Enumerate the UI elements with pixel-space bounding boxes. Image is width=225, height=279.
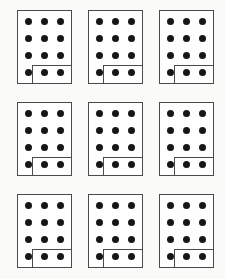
dot [112, 236, 119, 243]
dot [41, 18, 48, 25]
dot [112, 18, 119, 25]
dot-cell [107, 214, 123, 231]
dot [57, 236, 64, 243]
dot-cell [36, 105, 52, 122]
dot-cell [91, 214, 107, 231]
dot [183, 219, 190, 226]
dot [167, 69, 174, 76]
dot-cell [107, 13, 123, 30]
dot-cell [36, 122, 52, 139]
dot-cell [36, 13, 52, 30]
dot [199, 202, 206, 209]
dot [128, 144, 135, 151]
dot-cell [194, 139, 210, 156]
boxed-dots-outline [174, 157, 213, 175]
dot-cell [194, 197, 210, 214]
dot-cell [52, 47, 68, 64]
dot-cell [36, 30, 52, 47]
dot [128, 236, 135, 243]
dot-cell [20, 122, 36, 139]
dot [25, 253, 32, 260]
dot-cell [107, 139, 123, 156]
dot [128, 127, 135, 134]
dot [167, 110, 174, 117]
dot-cell [162, 231, 178, 248]
dot-card [17, 102, 72, 176]
dot [183, 110, 190, 117]
dot-cell [52, 122, 68, 139]
dot [167, 18, 174, 25]
dot-cell [123, 231, 139, 248]
dot [167, 253, 174, 260]
dot-cell [162, 214, 178, 231]
dot-card [88, 194, 143, 268]
dot-card [17, 10, 72, 84]
dot [57, 202, 64, 209]
boxed-dots-outline [32, 65, 71, 83]
dot-cell [194, 214, 210, 231]
dot-cell [123, 197, 139, 214]
dot [112, 144, 119, 151]
dot-cell [20, 30, 36, 47]
dot [199, 127, 206, 134]
dot [96, 69, 103, 76]
dot [41, 127, 48, 134]
dot [199, 35, 206, 42]
dot [167, 144, 174, 151]
dot [199, 18, 206, 25]
dot-cell [178, 197, 194, 214]
dot [25, 110, 32, 117]
dot [183, 35, 190, 42]
dot-cell [123, 47, 139, 64]
dot [167, 127, 174, 134]
dot-cell [91, 105, 107, 122]
dot-cell [107, 231, 123, 248]
dot [183, 127, 190, 134]
dot-card [88, 102, 143, 176]
dot-cell [194, 231, 210, 248]
dot-cell [107, 30, 123, 47]
dot-cell [107, 47, 123, 64]
dot-card [159, 102, 214, 176]
dot-cell [194, 122, 210, 139]
dot-cell [91, 139, 107, 156]
worksheet-page [0, 0, 225, 279]
dot [41, 110, 48, 117]
dot-cell [91, 197, 107, 214]
dot-cell [52, 30, 68, 47]
dot-cell [107, 197, 123, 214]
dot [57, 52, 64, 59]
dot-cell [178, 105, 194, 122]
dot-card [17, 194, 72, 268]
dot-cell [36, 139, 52, 156]
dot-cell [107, 105, 123, 122]
dot-cell [91, 231, 107, 248]
dot [25, 236, 32, 243]
dot [57, 144, 64, 151]
dot [183, 144, 190, 151]
dot [112, 110, 119, 117]
boxed-dots-outline [32, 249, 71, 267]
dot-cell [123, 30, 139, 47]
dot [96, 144, 103, 151]
dot-cell [178, 30, 194, 47]
boxed-dots-outline [174, 249, 213, 267]
dot-cell [194, 47, 210, 64]
dot [112, 202, 119, 209]
dot-cell [162, 13, 178, 30]
dot [128, 52, 135, 59]
dot [167, 161, 174, 168]
dot-card [88, 10, 143, 84]
boxed-dots-outline [103, 249, 142, 267]
dot [183, 202, 190, 209]
dot-cell [123, 13, 139, 30]
dot [41, 144, 48, 151]
dot-cell [52, 231, 68, 248]
dot [57, 110, 64, 117]
dot [112, 35, 119, 42]
dot [96, 110, 103, 117]
dot [57, 35, 64, 42]
dot-cell [162, 122, 178, 139]
dot [96, 253, 103, 260]
dot [199, 236, 206, 243]
